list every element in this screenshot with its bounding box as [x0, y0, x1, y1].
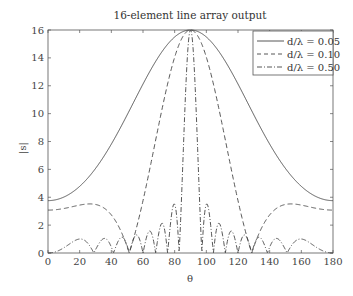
y-tick-label: 4	[38, 192, 44, 203]
legend-label-0.10: d/λ = 0.10	[287, 49, 340, 60]
y-axis-label: |s|	[17, 142, 29, 154]
y-tick-label: 16	[31, 25, 44, 36]
y-tick-label: 0	[38, 248, 44, 259]
legend-label-0.05: d/λ = 0.05	[287, 36, 340, 47]
chart-title: 16-element line array output	[113, 9, 267, 21]
x-tick-label: 60	[137, 256, 150, 267]
x-tick-label: 80	[168, 256, 181, 267]
y-tick-label: 10	[31, 108, 44, 119]
x-tick-label: 100	[197, 256, 216, 267]
y-tick-label: 8	[38, 136, 44, 147]
x-tick-label: 180	[323, 256, 342, 267]
x-tick-label: 160	[292, 256, 311, 267]
legend-label-0.50: d/λ = 0.50	[287, 62, 340, 73]
x-tick-label: 20	[73, 256, 86, 267]
line-chart: 16-element line array output 02040608010…	[0, 0, 353, 296]
y-tick-label: 6	[38, 164, 44, 175]
x-tick-label: 140	[260, 256, 279, 267]
y-tick-label: 14	[31, 52, 44, 63]
x-axis-label: θ	[187, 273, 193, 284]
x-tick-label: 40	[105, 256, 118, 267]
y-tick-label: 12	[31, 80, 44, 91]
legend: d/λ = 0.05 d/λ = 0.10 d/λ = 0.50	[253, 31, 340, 75]
x-tick-label: 120	[228, 256, 247, 267]
x-tick-label: 0	[45, 256, 51, 267]
y-tick-label: 2	[38, 220, 44, 231]
